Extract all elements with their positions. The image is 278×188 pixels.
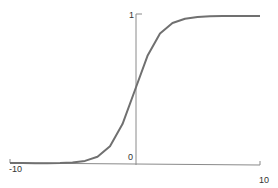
sigmoid-chart (0, 0, 278, 188)
x-min-label: -10 (9, 165, 22, 174)
sigmoid-curve (10, 16, 260, 163)
y-max-label: 1 (129, 11, 134, 20)
y-min-label: 0 (128, 153, 133, 162)
x-max-label: 10 (259, 176, 269, 185)
